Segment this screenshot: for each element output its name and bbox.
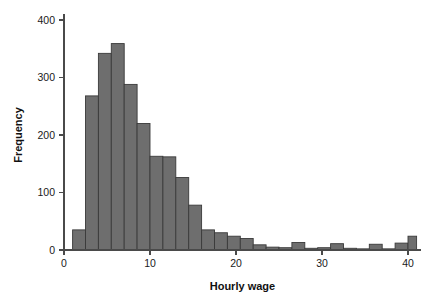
x-tick-label: 10	[144, 257, 156, 269]
histogram-bar	[202, 230, 215, 250]
histogram-bar	[395, 243, 408, 250]
histogram-bar	[369, 244, 382, 250]
y-tick-label: 200	[37, 129, 55, 141]
y-axis-ticks: 0100200300400	[37, 14, 64, 256]
histogram-bar	[215, 233, 228, 250]
y-tick-label: 400	[37, 14, 55, 26]
histogram-bar	[240, 239, 253, 251]
histogram-bar	[253, 245, 266, 250]
bar-group	[73, 44, 417, 250]
histogram-bar	[124, 84, 137, 250]
plot-area: 0100200300400010203040Hourly wageFrequen…	[0, 0, 434, 301]
histogram-chart: 0100200300400010203040Hourly wageFrequen…	[0, 0, 434, 301]
histogram-bar	[408, 236, 417, 250]
histogram-bar	[137, 124, 150, 251]
histogram-bar	[163, 157, 176, 250]
x-tick-label: 20	[230, 257, 242, 269]
x-axis-ticks: 010203040	[61, 250, 414, 269]
histogram-bar	[111, 44, 124, 250]
histogram-bar	[292, 243, 305, 250]
x-axis-title: Hourly wage	[210, 280, 275, 292]
x-tick-label: 40	[402, 257, 414, 269]
x-tick-label: 0	[61, 257, 67, 269]
y-tick-label: 300	[37, 71, 55, 83]
y-tick-label: 100	[37, 186, 55, 198]
y-axis-title: Frequency	[12, 106, 24, 163]
y-tick-label: 0	[49, 244, 55, 256]
histogram-bar	[150, 156, 163, 250]
x-tick-label: 30	[316, 257, 328, 269]
histogram-bar	[73, 230, 86, 250]
histogram-bar	[86, 96, 99, 250]
histogram-bar	[189, 205, 202, 250]
histogram-bar	[176, 178, 189, 250]
histogram-bar	[98, 53, 111, 250]
histogram-bar	[331, 244, 344, 250]
histogram-bar	[227, 236, 240, 250]
